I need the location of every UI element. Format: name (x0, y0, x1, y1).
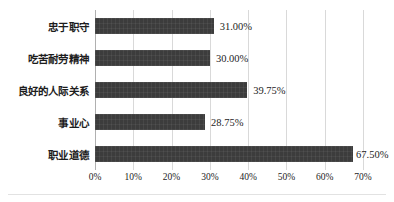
bar-value-label: 31.00% (220, 21, 252, 32)
category-label: 职业道德 (48, 147, 95, 162)
bar-value-label: 67.50% (356, 149, 388, 160)
category-label: 良好的人际关系 (18, 83, 95, 98)
bar-series-item (95, 82, 247, 98)
x-tick-label: 50% (278, 172, 295, 182)
bar-value-label: 28.75% (211, 117, 243, 128)
category-label: 事业心 (58, 115, 95, 130)
category-label: 吃苦耐劳精神 (28, 51, 95, 66)
bar-series-item (95, 50, 210, 66)
bar-series-item (95, 146, 353, 162)
bar-rows: 忠于职守 31.00% 吃苦耐劳精神 30.00% 良好的人际关系 39.75%… (0, 10, 394, 170)
x-axis: 0% 10% 20% 30% 40% 50% 60% 70% (95, 170, 363, 188)
x-tick-label: 10% (125, 172, 142, 182)
x-tick-label: 70% (354, 172, 371, 182)
category-label: 忠于职守 (48, 19, 95, 34)
bar-row: 忠于职守 31.00% (0, 10, 394, 42)
x-tick-label: 40% (239, 172, 256, 182)
bottom-divider (8, 194, 386, 195)
bar-value-label: 39.75% (253, 85, 285, 96)
x-tick-label: 0% (89, 172, 102, 182)
bar-row: 职业道德 67.50% (0, 138, 394, 170)
x-tick-label: 20% (163, 172, 180, 182)
bar-value-label: 30.00% (216, 53, 248, 64)
x-tick-label: 30% (201, 172, 218, 182)
bar-series-item (95, 114, 205, 130)
bar-row: 事业心 28.75% (0, 106, 394, 138)
bar-row: 吃苦耐劳精神 30.00% (0, 42, 394, 74)
bar-chart: 忠于职守 31.00% 吃苦耐劳精神 30.00% 良好的人际关系 39.75%… (0, 0, 394, 202)
x-tick-label: 60% (316, 172, 333, 182)
bar-row: 良好的人际关系 39.75% (0, 74, 394, 106)
bar-series-item (95, 18, 214, 34)
